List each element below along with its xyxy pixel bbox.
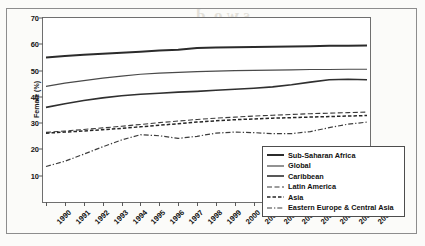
legend-item: Sub-Saharan Africa [267,150,400,161]
series-line [46,46,367,58]
x-axis-tick-mark [216,202,217,206]
series-line [46,116,367,134]
y-axis-tick-label: 60 [31,40,39,49]
legend-item: Global [267,161,400,172]
legend-line-icon [267,173,284,179]
legend-line-icon [267,163,284,169]
y-axis-tick-label: 20 [31,145,39,154]
y-axis-tick-label: 30 [31,119,39,128]
legend-item-label: Latin America [288,183,336,190]
legend-line-icon [267,184,284,190]
legend-line-icon [267,205,284,211]
x-axis-tick-mark [103,202,104,206]
x-axis-tick-mark [140,202,141,206]
legend-line-icon [267,152,284,158]
scanned-page-background: s w o ,d anssia in i 'nrnsi lgm eicn s a… [0,0,425,246]
legend-item-label: Caribbean [288,173,324,180]
legend-item: Asia [267,192,400,203]
legend-item: Latin America [267,182,400,193]
legend-item-label: Sub-Saharan Africa [288,152,355,159]
x-axis-tick-mark [197,202,198,206]
legend-item-label: Asia [288,194,303,201]
x-axis-tick-mark [235,202,236,206]
x-axis-tick-mark [46,202,47,206]
x-axis-tick-mark [159,202,160,206]
y-axis-tick-label: 70 [31,14,39,23]
legend-item: Eastern Europe & Central Asia [267,203,400,214]
series-line [46,79,367,107]
y-axis-tick-label: 10 [31,171,39,180]
x-axis-tick-mark [122,202,123,206]
legend-item: Caribbean [267,171,400,182]
x-axis-tick-mark [178,202,179,206]
x-axis-tick-mark [84,202,85,206]
legend-line-icon [267,194,284,200]
x-axis-tick-mark [65,202,66,206]
y-axis-tick-label: 50 [31,66,39,75]
chart-legend: Sub-Saharan AfricaGlobalCaribbeanLatin A… [262,146,405,217]
y-axis-tick-label: 40 [31,92,39,101]
x-axis-tick-mark [254,202,255,206]
legend-item-label: Eastern Europe & Central Asia [288,204,394,211]
series-line [46,69,367,86]
legend-item-label: Global [288,162,311,169]
